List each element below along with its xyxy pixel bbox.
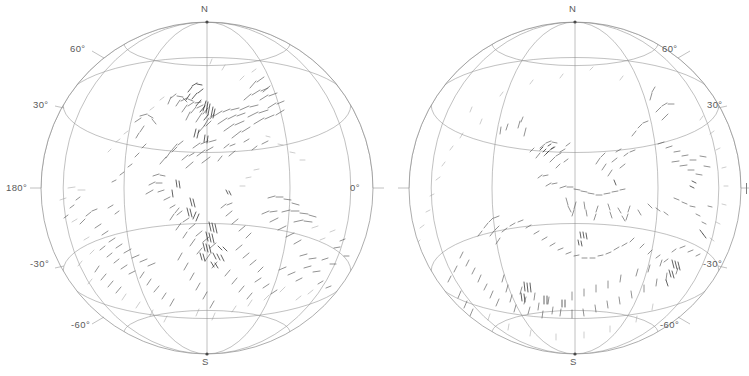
left-leader-60 bbox=[92, 51, 104, 58]
right-latitude-label-minus-60: -60° bbox=[660, 320, 679, 330]
hemisphere-lineament-figure: N S 60° 30° -30° -60° 180° N S 60° 30° -… bbox=[0, 0, 749, 376]
map-canvas bbox=[0, 0, 749, 376]
left-latitude-label-minus-30: -30° bbox=[30, 259, 49, 269]
right-north-pole-dot bbox=[573, 20, 576, 23]
right-graticule bbox=[409, 21, 741, 355]
left-latitude-label-minus-60: -60° bbox=[71, 320, 90, 330]
left-latitude-label-60: 60° bbox=[70, 44, 86, 54]
right-south-pole-label: S bbox=[570, 357, 577, 367]
right-leader-m60 bbox=[678, 317, 690, 324]
left-longitude-label-180: 180° bbox=[6, 183, 27, 193]
left-south-pole-label: S bbox=[202, 357, 209, 367]
left-north-pole-label: N bbox=[201, 4, 208, 14]
left-graticule bbox=[41, 21, 373, 355]
left-latitude-label-30: 30° bbox=[33, 100, 49, 110]
right-leader-60 bbox=[678, 51, 690, 58]
right-lineaments bbox=[426, 87, 712, 318]
left-north-pole-dot bbox=[205, 20, 208, 23]
left-leader-m30 bbox=[55, 266, 64, 268]
right-latitude-label-60: 60° bbox=[662, 44, 678, 54]
right-hemisphere-group bbox=[398, 20, 749, 355]
right-north-pole-label: N bbox=[569, 4, 576, 14]
right-latitude-label-30: 30° bbox=[707, 100, 723, 110]
right-longitude-label-0: 0° bbox=[350, 183, 360, 193]
left-hemisphere-group bbox=[30, 20, 384, 355]
right-lineaments-dense bbox=[521, 144, 706, 307]
left-lineaments-faint bbox=[60, 59, 335, 322]
left-leader-m60 bbox=[92, 317, 104, 324]
right-edge-meridian-tick bbox=[746, 183, 747, 194]
right-latitude-label-minus-30: -30° bbox=[703, 259, 722, 269]
